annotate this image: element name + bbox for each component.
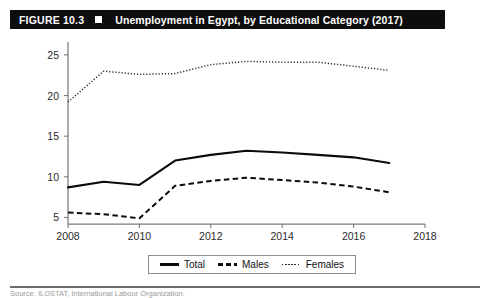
legend-swatch-solid-icon bbox=[160, 263, 179, 265]
figure-number: FIGURE 10.3 bbox=[19, 14, 84, 26]
x-tick-label: 2018 bbox=[413, 230, 437, 242]
line-chart: 510152025 200820102012201420162018 bbox=[0, 32, 490, 254]
y-tick-label: 10 bbox=[47, 171, 59, 183]
legend-label-males: Males bbox=[242, 259, 269, 270]
chart-legend: Total Males Females bbox=[148, 255, 356, 274]
legend-swatch-dashed-icon bbox=[218, 263, 237, 265]
legend-item-total: Total bbox=[160, 259, 205, 270]
page-title: Unemployment in Egypt, by Educational Ca… bbox=[115, 14, 403, 26]
y-tick-label: 15 bbox=[47, 130, 59, 142]
figure-title-bar: FIGURE 10.3 Unemployment in Egypt, by Ed… bbox=[10, 10, 445, 29]
x-tick-label: 2010 bbox=[128, 230, 152, 242]
y-tick-label: 20 bbox=[47, 90, 59, 102]
legend-label-total: Total bbox=[184, 259, 205, 270]
source-note: Source: ILOSTAT, International Labour Or… bbox=[10, 290, 480, 298]
legend-label-females: Females bbox=[306, 259, 344, 270]
y-axis-ticks: 510152025 bbox=[47, 49, 68, 224]
series-line-females bbox=[68, 61, 389, 102]
legend-item-males: Males bbox=[218, 259, 269, 270]
legend-item-females: Females bbox=[282, 259, 344, 270]
legend-swatch-dotted-icon bbox=[282, 264, 301, 266]
x-tick-label: 2014 bbox=[271, 230, 295, 242]
chart-plot-area: 510152025 200820102012201420162018 bbox=[0, 32, 490, 254]
x-tick-label: 2008 bbox=[56, 230, 80, 242]
series-line-total bbox=[68, 151, 389, 188]
y-tick-label: 5 bbox=[53, 211, 59, 223]
footer-divider bbox=[10, 286, 480, 288]
black-square-marker-icon bbox=[95, 16, 102, 23]
x-axis-ticks: 200820102012201420162018 bbox=[56, 224, 437, 242]
x-tick-label: 2016 bbox=[342, 230, 366, 242]
y-tick-label: 25 bbox=[47, 49, 59, 61]
x-tick-label: 2012 bbox=[199, 230, 223, 242]
